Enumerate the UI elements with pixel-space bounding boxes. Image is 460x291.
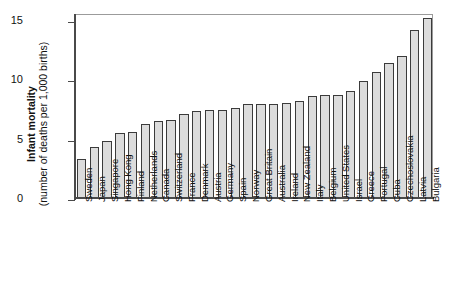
- x-axis-tick-label: Greece: [366, 171, 376, 202]
- y-axis-tick-label: 10: [0, 74, 23, 85]
- y-axis-tick: [68, 81, 75, 82]
- x-axis-tick-label: Canada: [161, 169, 171, 202]
- x-axis-tick-label: Germany: [225, 163, 235, 202]
- y-axis-title: Infant mortality (number of deaths per 1…: [21, 24, 55, 224]
- x-axis-tick-labels: SwedenJapanSingaporeHong KongFinlandNeth…: [74, 199, 433, 291]
- x-axis-tick-label: Norway: [251, 170, 261, 202]
- x-axis-tick-label: Sweden: [84, 168, 94, 202]
- y-axis-tick-label: 0: [0, 193, 23, 204]
- x-axis-tick-label: Portugal: [379, 167, 389, 202]
- x-axis-tick-label: Great Britain: [264, 149, 274, 202]
- x-axis-tick-label: Netherlands: [149, 151, 159, 202]
- y-axis-title-sub: (number of deaths per 1,000 births): [38, 42, 50, 207]
- x-axis-tick-label: Hong Kong: [123, 154, 133, 202]
- x-axis-tick-label: Belgium: [328, 168, 338, 202]
- x-axis-tick-label: Italy: [315, 185, 325, 202]
- x-axis-tick-label: Japan: [97, 176, 107, 202]
- y-axis-tick: [68, 22, 75, 23]
- x-axis-tick-label: Finland: [136, 171, 146, 202]
- x-axis-tick-label: France: [187, 172, 197, 202]
- x-axis-tick-label: Czechoslovakia: [405, 135, 415, 202]
- y-axis-tick-label: 15: [0, 15, 23, 26]
- x-axis-tick-label: Denmark: [200, 163, 210, 202]
- chart-figure: Infant mortality (number of deaths per 1…: [0, 0, 460, 291]
- x-axis-tick-label: United States: [341, 145, 351, 202]
- x-axis-tick-label: New Zealand: [302, 146, 312, 202]
- x-axis-tick-label: Austria: [213, 172, 223, 202]
- y-axis-tick-label: 5: [0, 134, 23, 145]
- x-axis-tick-label: Bulgaria: [431, 167, 441, 202]
- x-axis-tick-label: Latvia: [418, 177, 428, 202]
- x-axis-tick-label: Ireland: [290, 173, 300, 202]
- x-axis-tick-label: Cuba: [392, 179, 402, 202]
- y-axis-tick: [68, 141, 75, 142]
- x-axis-tick-label: Australia: [277, 165, 287, 202]
- x-axis-tick-label: Singapore: [110, 159, 120, 202]
- x-axis-tick-label: Israel: [354, 179, 364, 202]
- x-axis-tick-label: Switzerland: [174, 153, 184, 202]
- x-axis-tick-label: Spain: [238, 178, 248, 202]
